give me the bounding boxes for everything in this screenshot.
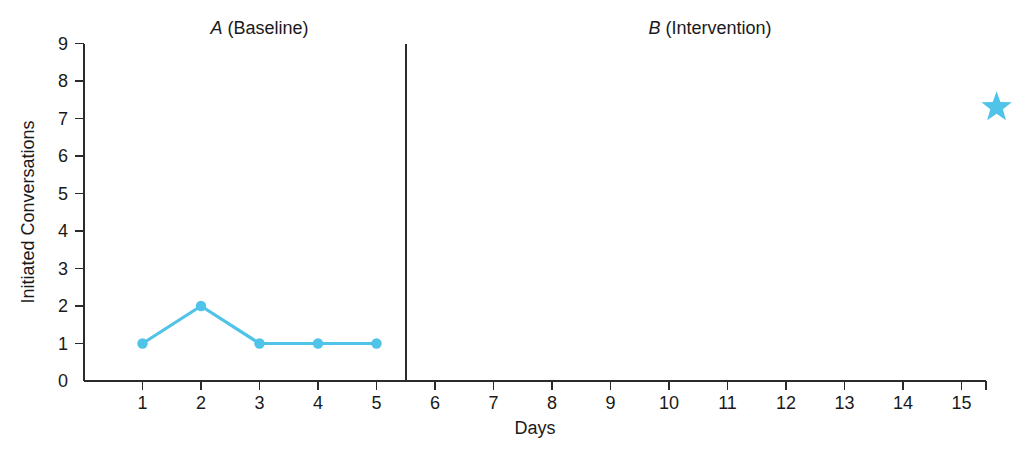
y-axis-tick-label: 6 <box>58 146 68 166</box>
phase-label-phase-a: A (Baseline) <box>209 18 308 38</box>
x-axis-tick-label: 13 <box>834 393 854 413</box>
phase-label-letter: A <box>209 18 222 38</box>
phase-labels: A (Baseline)B (Intervention) <box>209 18 771 38</box>
x-axis-tick-label: 10 <box>659 393 679 413</box>
y-axis-tick-label: 2 <box>58 296 68 316</box>
x-axis-tick-label: 8 <box>547 393 557 413</box>
data-point-marker <box>254 338 264 348</box>
data-point-marker <box>371 338 381 348</box>
y-axis-tick-label: 5 <box>58 184 68 204</box>
data-series <box>137 301 381 349</box>
data-point-marker <box>196 301 206 311</box>
y-axis-tick-label: 9 <box>58 34 68 54</box>
x-axis-tick-label: 12 <box>776 393 796 413</box>
x-axis-tick-label: 9 <box>605 393 615 413</box>
y-axis-tick-label: 0 <box>58 371 68 391</box>
single-subject-ab-design-chart: Initiated Conversations Days 0123456789 … <box>0 0 1016 459</box>
x-axis-tick-label: 1 <box>137 393 147 413</box>
x-axis-tick-label: 3 <box>254 393 264 413</box>
x-axis-title: Days <box>514 418 555 438</box>
y-axis-tick-label: 1 <box>58 334 68 354</box>
phase-label-name: (Intervention) <box>660 18 771 38</box>
data-point-marker <box>137 338 147 348</box>
x-axis-tick-label: 2 <box>196 393 206 413</box>
x-axis-tick-label: 15 <box>951 393 971 413</box>
phase-label-phase-b: B (Intervention) <box>648 18 771 38</box>
series-line-0 <box>143 306 377 344</box>
x-axis-tick-label: 7 <box>488 393 498 413</box>
x-axis: 123456789101112131415 <box>84 381 986 413</box>
x-axis-tick-label: 14 <box>893 393 913 413</box>
y-axis-tick-label: 8 <box>58 71 68 91</box>
x-axis-tick-label: 5 <box>371 393 381 413</box>
chart-annotations <box>981 91 1011 120</box>
phase-label-name: (Baseline) <box>222 18 308 38</box>
y-axis-title: Initiated Conversations <box>18 120 38 303</box>
data-point-marker <box>313 338 323 348</box>
phase-label-letter: B <box>648 18 660 38</box>
chart-canvas: Initiated Conversations Days 0123456789 … <box>0 0 1016 459</box>
y-axis-tick-label: 7 <box>58 109 68 129</box>
x-axis-tick-label: 6 <box>430 393 440 413</box>
y-axis-tick-label: 4 <box>58 221 68 241</box>
goal-star-icon <box>981 91 1011 120</box>
x-axis-tick-label: 11 <box>718 393 737 413</box>
y-axis-tick-label: 3 <box>58 259 68 279</box>
y-axis: 0123456789 <box>58 34 84 392</box>
x-axis-tick-label: 4 <box>313 393 323 413</box>
